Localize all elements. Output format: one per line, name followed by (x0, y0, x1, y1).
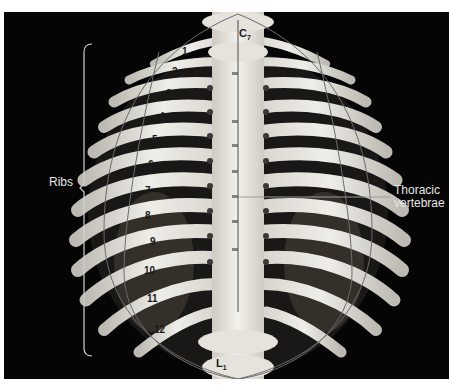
vertebra-c7-sub: 7 (247, 34, 251, 41)
figure-frame: Ribs Thoracic vertebrae C7 L1 1 2 3 4 5 … (4, 12, 449, 379)
thoracic-vertebrae-label: Thoracic vertebrae (394, 184, 445, 210)
rib-number-8: 8 (145, 211, 151, 221)
rib-number-5: 5 (152, 135, 158, 145)
vertebra-label-l1: L1 (216, 357, 227, 371)
vertebra-l1-sub: 1 (223, 364, 227, 371)
vertebra-l1-letter: L (216, 357, 223, 369)
rib-number-12: 12 (154, 325, 165, 335)
rib-number-10: 10 (144, 266, 155, 276)
vertebra-c7-letter: C (239, 27, 247, 39)
vertebra-label-c7: C7 (239, 27, 251, 41)
rib-number-6: 6 (148, 160, 154, 170)
rib-number-4: 4 (159, 112, 165, 122)
rib-number-2: 2 (172, 67, 178, 77)
rib-number-11: 11 (147, 294, 158, 304)
rib-number-9: 9 (150, 237, 156, 247)
ribs-label: Ribs (49, 176, 73, 189)
rib-number-7: 7 (145, 186, 151, 196)
rib-number-1: 1 (182, 47, 188, 57)
thoracic-vertebrae-label-line2: vertebrae (394, 197, 445, 210)
rib-number-3: 3 (166, 89, 172, 99)
rib-cage-illustration (4, 12, 449, 379)
